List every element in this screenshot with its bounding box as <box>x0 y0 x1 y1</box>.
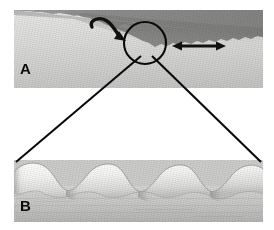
panel-a-micrograph: A <box>14 10 263 88</box>
panel-b-graphic <box>14 160 263 222</box>
panel-b-schematic: B <box>14 160 263 222</box>
lobe-valley-0 <box>14 162 28 196</box>
lobe-band <box>14 162 263 203</box>
panel-a-label: A <box>20 61 31 76</box>
panel-b-label: B <box>20 198 31 213</box>
figure-root: A <box>0 0 274 230</box>
panel-a-dark-layer <box>14 10 263 88</box>
